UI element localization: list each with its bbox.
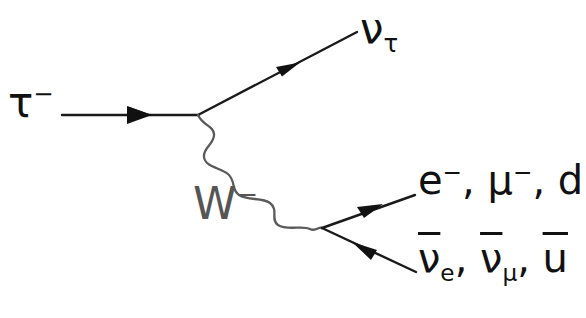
label-w-boson-charge: − xyxy=(237,179,258,209)
label-w-boson-symbol: W xyxy=(193,178,237,229)
label-muon-symbol: μ xyxy=(487,157,512,203)
label-tau-minus: τ− xyxy=(8,82,54,124)
label-electron-charge: − xyxy=(443,158,462,185)
label-down-quark-symbol: d xyxy=(558,157,583,203)
antifermion-direction-arrow-icon xyxy=(352,242,377,260)
label-muon-antineutrino-subscript: μ xyxy=(502,259,517,286)
label-electron-symbol: e xyxy=(418,157,443,203)
label-tau-neutrino: ντ xyxy=(360,8,398,57)
label-tau-charge: − xyxy=(33,79,53,108)
label-tau-neutrino-symbol: ν xyxy=(360,4,383,53)
label-electron-antineutrino-subscript: e xyxy=(440,259,454,286)
label-electron-antineutrino-symbol: ν xyxy=(418,235,440,281)
label-muon-antineutrino-symbol: ν xyxy=(480,235,502,281)
label-tau-neutrino-subscript: τ xyxy=(383,29,398,58)
label-fermion-products: e−, μ−, d xyxy=(418,160,583,200)
tau-direction-arrow-fill-icon xyxy=(127,106,152,124)
label-w-boson: W− xyxy=(193,182,258,226)
label-antifermion-separator-1: , xyxy=(455,235,468,281)
label-antifermion-products: νe, νμ, u xyxy=(418,238,568,284)
fermion-direction-arrow-icon xyxy=(357,204,383,218)
tau-neutrino-direction-arrow-icon xyxy=(276,63,300,77)
label-muon-charge: − xyxy=(513,158,532,185)
label-tau-symbol: τ xyxy=(8,78,33,127)
feynman-diagram-canvas: τ− ντ W− e−, μ−, d νe, νμ, u xyxy=(0,0,586,318)
tau-neutrino-line xyxy=(198,32,357,115)
label-fermion-separator-2: , xyxy=(532,157,545,203)
label-fermion-separator-1: , xyxy=(462,157,475,203)
label-antifermion-separator-2: , xyxy=(517,235,530,281)
label-up-antiquark-symbol: u xyxy=(543,235,568,281)
